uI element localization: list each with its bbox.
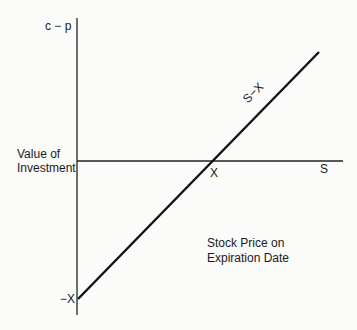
intercept-label: −X xyxy=(60,292,75,306)
value-label-line2: Investment xyxy=(17,161,76,175)
x-axis-caption: Stock Price on Expiration Date xyxy=(207,236,289,266)
x-axis-caption-line2: Expiration Date xyxy=(207,251,289,266)
value-label-line1: Value of xyxy=(17,147,76,161)
value-of-investment-label: Value of Investment xyxy=(17,147,76,175)
strike-label: X xyxy=(210,166,218,180)
x-axis-caption-line1: Stock Price on xyxy=(207,236,289,251)
x-axis-end-label: S xyxy=(320,162,328,176)
y-axis-label: c − p xyxy=(45,19,71,33)
diagram-canvas: c − p Value of Investment X S −X S−X Sto… xyxy=(0,0,357,330)
